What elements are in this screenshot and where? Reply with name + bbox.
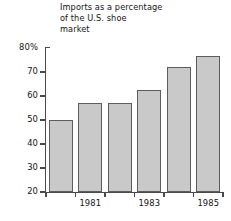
x-axis-tick [222, 193, 223, 197]
bar [137, 90, 161, 192]
bar-chart: Imports as a percentage of the U.S. shoe… [0, 0, 231, 221]
y-axis-tick [40, 95, 46, 96]
y-axis-tick-label: 30 [27, 162, 38, 172]
bar [196, 56, 220, 192]
bar [78, 103, 102, 192]
y-axis-tick-label: 70 [27, 66, 38, 76]
y-axis-tick-label: 60 [27, 90, 38, 100]
bar [167, 67, 191, 192]
y-axis-tick-label: 80% [19, 42, 38, 52]
y-axis-top-nub [45, 47, 50, 48]
x-axis-tick-label: 1983 [129, 198, 169, 208]
y-axis-tick [40, 71, 46, 72]
bar [108, 103, 132, 192]
y-axis-tick [40, 167, 46, 168]
x-axis-tick [104, 193, 105, 197]
y-axis-tick-label: 40 [27, 138, 38, 148]
x-axis-tick [75, 193, 76, 197]
y-axis-tick-label: 20 [27, 186, 38, 196]
x-axis-tick [193, 193, 194, 197]
y-axis-tick [40, 143, 46, 144]
x-axis-tick-label: 1981 [70, 198, 110, 208]
x-axis-tick-label: 1985 [188, 198, 228, 208]
x-axis-tick [45, 193, 46, 197]
x-axis-tick [163, 193, 164, 197]
y-axis-tick-label: 50 [27, 114, 38, 124]
bar [49, 120, 73, 192]
chart-title: Imports as a percentage of the U.S. shoe… [60, 2, 200, 36]
y-axis-tick [40, 119, 46, 120]
x-axis-tick [134, 193, 135, 197]
